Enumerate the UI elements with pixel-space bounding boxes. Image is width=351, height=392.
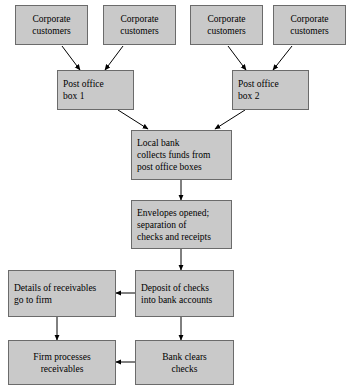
node-corporate-customers-1[interactable]: Corporate customers bbox=[15, 5, 88, 45]
node-line: into bank accounts bbox=[141, 294, 212, 306]
node-envelopes-opened[interactable]: Envelopes opened; separation of checks a… bbox=[131, 200, 232, 249]
node-line: customers bbox=[290, 25, 329, 37]
node-firm-processes-receivables[interactable]: Firm processes receivables bbox=[8, 340, 116, 385]
node-post-office-box-1[interactable]: Post office box 1 bbox=[57, 70, 134, 110]
edge-pobox1-localbank bbox=[118, 110, 148, 129]
node-line: Details of receivables bbox=[14, 282, 96, 294]
node-line: customers bbox=[120, 25, 159, 37]
flowchart-canvas: Corporate customers Corporate customers … bbox=[0, 0, 351, 392]
node-bank-clears-checks[interactable]: Bank clears checks bbox=[135, 340, 234, 385]
node-line: box 2 bbox=[238, 90, 259, 102]
edge-pobox2-localbank bbox=[215, 110, 245, 129]
node-deposit-of-checks[interactable]: Deposit of checks into bank accounts bbox=[135, 270, 234, 317]
node-line: checks and receipts bbox=[137, 231, 211, 243]
node-line: Local bank bbox=[137, 137, 179, 149]
edge-cust1-pobox1 bbox=[62, 46, 80, 70]
node-line: post office boxes bbox=[137, 161, 202, 173]
node-corporate-customers-4[interactable]: Corporate customers bbox=[273, 5, 346, 45]
node-line: go to firm bbox=[14, 294, 52, 306]
node-line: Corporate bbox=[33, 13, 71, 25]
node-local-bank-collects-funds[interactable]: Local bank collects funds from post offi… bbox=[131, 130, 232, 180]
node-line: Corporate bbox=[121, 13, 159, 25]
node-line: collects funds from bbox=[137, 149, 210, 161]
node-line: Corporate bbox=[291, 13, 329, 25]
node-line: box 1 bbox=[63, 90, 84, 102]
edge-cust4-pobox2 bbox=[273, 46, 292, 70]
node-line: receivables bbox=[41, 363, 84, 375]
node-line: Post office bbox=[238, 78, 279, 90]
node-line: Post office bbox=[63, 78, 104, 90]
node-line: customers bbox=[207, 25, 246, 37]
node-line: Firm processes bbox=[33, 351, 90, 363]
node-line: Deposit of checks bbox=[141, 282, 209, 294]
edge-cust2-pobox1 bbox=[105, 46, 123, 70]
node-line: customers bbox=[32, 25, 71, 37]
node-line: separation of bbox=[137, 219, 186, 231]
node-corporate-customers-2[interactable]: Corporate customers bbox=[103, 5, 176, 45]
node-line: Corporate bbox=[208, 13, 246, 25]
flowchart-edges bbox=[0, 0, 351, 392]
edge-cust3-pobox2 bbox=[228, 46, 246, 70]
node-line: checks bbox=[172, 363, 198, 375]
node-line: Bank clears bbox=[162, 351, 207, 363]
node-details-of-receivables[interactable]: Details of receivables go to firm bbox=[8, 270, 116, 317]
node-post-office-box-2[interactable]: Post office box 2 bbox=[232, 70, 309, 110]
node-corporate-customers-3[interactable]: Corporate customers bbox=[190, 5, 263, 45]
node-line: Envelopes opened; bbox=[137, 207, 209, 219]
